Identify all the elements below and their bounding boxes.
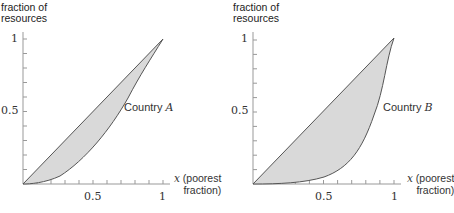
- x-tick-0.5: 0.5: [315, 190, 333, 203]
- x-axis-label: x (poorest fraction): [407, 172, 454, 196]
- x-tick-1: 1: [159, 190, 166, 203]
- y-tick-0.5: 0.5: [231, 104, 249, 117]
- y-axis-label: fraction of resources: [1, 2, 47, 24]
- gini-area-b: [253, 38, 394, 184]
- chart-country-a: fraction of resources 1 0.5 0.5 1 Countr…: [0, 0, 224, 213]
- y-axis-label: fraction of resources: [233, 2, 279, 24]
- x-tick-0.5: 0.5: [84, 190, 102, 203]
- y-tick-0.5: 0.5: [1, 104, 19, 117]
- curve-label-a: Country A: [124, 101, 174, 114]
- curve-label-b: Country B: [383, 101, 433, 114]
- x-tick-1: 1: [391, 190, 398, 203]
- y-tick-1: 1: [241, 32, 248, 45]
- y-tick-1: 1: [11, 32, 18, 45]
- x-axis-label: x (poorest fraction): [174, 172, 221, 196]
- chart-country-b: fraction of resources 1 0.5 0.5 1 Countr…: [224, 0, 448, 213]
